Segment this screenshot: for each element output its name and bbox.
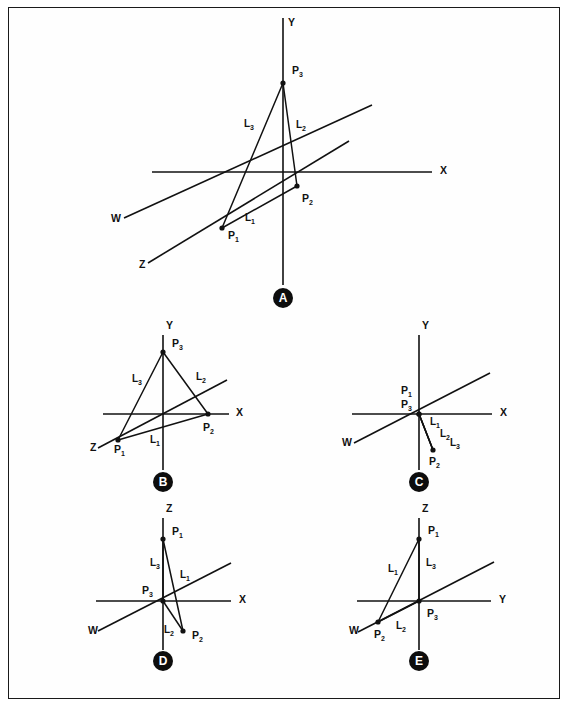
point-dot-p2-e	[375, 619, 380, 624]
point-label-p1-c: P1	[401, 384, 412, 398]
panel-badge-d[interactable]: D	[153, 651, 173, 671]
point-label-p2-b: P2	[203, 421, 214, 435]
point-dot-p3-c	[416, 411, 421, 416]
axis-label-w-d: W	[88, 624, 98, 636]
point-dot-p1-e	[416, 536, 421, 541]
panel-e: ZYWL1L2L3P1P2P3E	[349, 502, 506, 671]
axis-label-x-a: X	[440, 164, 447, 176]
panel-badge-a[interactable]: A	[273, 288, 293, 308]
axis-label-z-d: Z	[166, 502, 173, 514]
segment-label-l1-d: L1	[180, 569, 190, 582]
panel-d: ZXWL1L2L3P1P2P3D	[88, 502, 246, 671]
axis-label-y-c: Y	[422, 319, 429, 331]
point-label-p1-a: P1	[228, 229, 239, 243]
segment-label-l2-a: L2	[296, 119, 306, 132]
segment-label-l2-e: L2	[396, 620, 406, 633]
segment-l3-b	[118, 352, 163, 440]
axis-label-y-b: Y	[166, 319, 173, 331]
segment-label-l3-b: L3	[132, 373, 142, 386]
segment-label-l1-b: L1	[150, 434, 160, 447]
point-label-p3-d: P3	[142, 584, 153, 598]
figure-canvas: YXWZL1L2L3P1P2P3AYXZL1L2L3P1P2P3BYXWL1L2…	[0, 0, 570, 709]
point-dot-p2-a	[294, 183, 299, 188]
axis-z-a	[148, 141, 349, 263]
panel-badge-e[interactable]: E	[409, 651, 429, 671]
point-label-p3-a: P3	[292, 64, 303, 78]
point-dot-p3-d	[160, 598, 165, 603]
axis-label-x-b: X	[236, 406, 243, 418]
segment-label-l3-d: L3	[150, 557, 160, 570]
point-label-p2-e: P2	[374, 628, 385, 642]
point-label-p3-c: P3	[401, 398, 412, 412]
badge-letter-e: E	[415, 654, 423, 668]
segment-label-l2-d: L2	[164, 624, 174, 637]
point-label-p2-c: P2	[429, 455, 440, 469]
axis-label-z-a: Z	[139, 258, 146, 270]
axis-label-x-c: X	[500, 406, 507, 418]
point-dot-p1-b	[115, 437, 120, 442]
segment-label-l3-e: L3	[426, 557, 436, 570]
panels-layer: YXWZL1L2L3P1P2P3AYXZL1L2L3P1P2P3BYXWL1L2…	[88, 16, 507, 671]
segment-label-l1-e: L1	[388, 563, 398, 576]
segment-l1-a	[222, 186, 297, 228]
axis-label-w-e: W	[349, 624, 359, 636]
panel-b: YXZL1L2L3P1P2P3B	[90, 319, 243, 492]
segment-label-l2-c: L2	[440, 428, 450, 441]
axis-w-c	[354, 373, 490, 443]
segment-label-l2-b: L2	[196, 371, 206, 384]
panel-badge-b[interactable]: B	[153, 472, 173, 492]
segment-label-l1-a: L1	[245, 212, 255, 225]
badge-letter-c: C	[415, 475, 424, 489]
point-label-p2-a: P2	[302, 192, 313, 206]
axis-label-y-e: Y	[499, 593, 506, 605]
axis-label-z-e: Z	[422, 502, 429, 514]
panel-c: YXWL1L2L3P1P2P3C	[342, 319, 507, 492]
axis-label-y-a: Y	[288, 16, 295, 28]
point-label-p2-d: P2	[192, 629, 203, 643]
point-dot-p2-c	[430, 447, 435, 452]
point-dot-p1-a	[219, 225, 224, 230]
point-label-p1-b: P1	[114, 443, 125, 457]
axis-label-w-a: W	[111, 212, 121, 224]
panel-a: YXWZL1L2L3P1P2P3A	[111, 16, 447, 308]
point-label-p3-b: P3	[172, 337, 183, 351]
badge-letter-b: B	[159, 475, 168, 489]
segment-l2-a	[283, 83, 297, 186]
point-label-p1-d: P1	[172, 525, 183, 539]
point-dot-p3-a	[280, 80, 285, 85]
panel-badge-c[interactable]: C	[409, 472, 429, 492]
point-label-p3-e: P3	[427, 607, 438, 621]
point-dot-p3-e	[416, 598, 421, 603]
axis-label-x-d: X	[239, 593, 246, 605]
segment-label-l3-a: L3	[244, 118, 254, 131]
badge-letter-a: A	[279, 291, 288, 305]
point-dot-p2-d	[180, 628, 185, 633]
point-dot-p3-b	[160, 349, 165, 354]
axis-label-z-b: Z	[90, 441, 97, 453]
badge-letter-d: D	[159, 654, 168, 668]
segment-label-l1-c: L1	[430, 416, 440, 429]
axis-label-w-c: W	[342, 436, 352, 448]
segment-l1-e	[378, 539, 419, 622]
point-dot-p1-d	[160, 536, 165, 541]
segment-label-l3-c: L3	[450, 437, 460, 450]
point-dot-p2-b	[205, 411, 210, 416]
point-label-p1-e: P1	[428, 524, 439, 538]
segment-l3-a	[222, 83, 283, 228]
axis-w-d	[98, 563, 231, 631]
segment-l2-e	[378, 601, 419, 622]
